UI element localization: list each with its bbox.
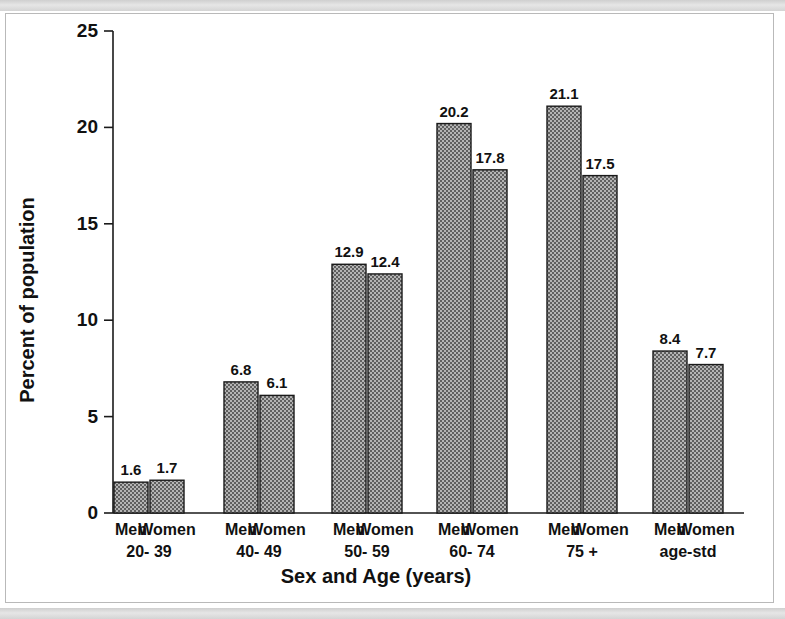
bar [368, 274, 402, 513]
age-group-label: 20- 39 [126, 543, 171, 560]
bar-value-label: 17.5 [585, 155, 614, 172]
bar-value-label: 20.2 [439, 103, 468, 120]
sex-label: Women [248, 521, 305, 538]
bar-value-label: 8.4 [660, 330, 682, 347]
sex-label: Women [138, 521, 195, 538]
y-tick-label: 25 [77, 20, 99, 41]
y-tick-label: 5 [87, 406, 98, 427]
y-tick-label: 20 [77, 116, 98, 137]
bar [437, 124, 471, 513]
sex-label: Women [461, 521, 518, 538]
bar [653, 351, 687, 513]
age-group-label: 50- 59 [344, 543, 389, 560]
bar-value-label: 1.7 [157, 459, 178, 476]
bar [332, 264, 366, 513]
bar-value-label: 17.8 [475, 149, 504, 166]
bar-value-label: 6.8 [231, 361, 252, 378]
bar-value-label: 6.1 [267, 374, 288, 391]
bar-value-label: 1.6 [121, 461, 142, 478]
bar [547, 106, 581, 513]
bar [689, 365, 723, 513]
bar [473, 170, 507, 513]
bar-value-label: 7.7 [696, 344, 717, 361]
bar [114, 482, 148, 513]
bar [224, 382, 258, 513]
age-group-label: 75 + [566, 543, 598, 560]
y-tick-label: 10 [77, 309, 98, 330]
bar [260, 395, 294, 513]
y-axis-title: Percent of population [16, 197, 38, 403]
y-tick-label: 0 [87, 502, 98, 523]
bar-value-label: 12.4 [370, 253, 400, 270]
sex-label: Women [571, 521, 628, 538]
bar-value-labels: 1.61.76.86.112.912.420.217.821.117.58.47… [121, 85, 717, 478]
bar-chart: 0510152025 1.61.76.86.112.912.420.217.82… [0, 0, 785, 619]
bar [150, 480, 184, 513]
bar-value-label: 12.9 [334, 243, 363, 260]
category-axis-labels: MenWomenMenWomenMenWomenMenWomenMenWomen… [115, 521, 735, 560]
bar [583, 176, 617, 513]
bar-series [114, 106, 723, 513]
y-tick-label: 15 [77, 213, 99, 234]
sex-label: Women [677, 521, 734, 538]
bar-value-label: 21.1 [549, 85, 578, 102]
age-group-label: age-std [660, 543, 717, 560]
x-axis-title: Sex and Age (years) [281, 565, 471, 587]
sex-label: Women [356, 521, 413, 538]
age-group-label: 40- 49 [236, 543, 281, 560]
scanned-page: 0510152025 1.61.76.86.112.912.420.217.82… [0, 0, 785, 619]
chart-axes: 0510152025 [77, 20, 744, 523]
age-group-label: 60- 74 [449, 543, 494, 560]
